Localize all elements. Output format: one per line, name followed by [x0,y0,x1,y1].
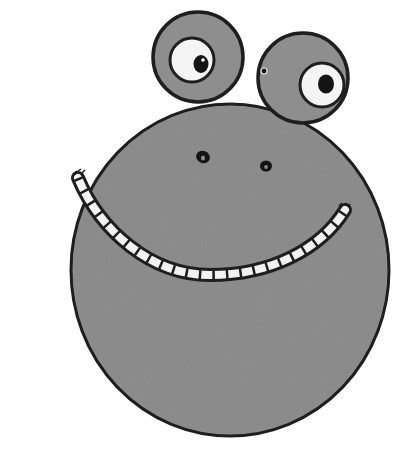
left-eye [153,12,243,102]
eye-dot [261,68,267,74]
frog-face-illustration [0,0,406,465]
left-pupil [194,55,209,73]
right-eye [258,33,348,123]
right-pupil [318,75,334,94]
